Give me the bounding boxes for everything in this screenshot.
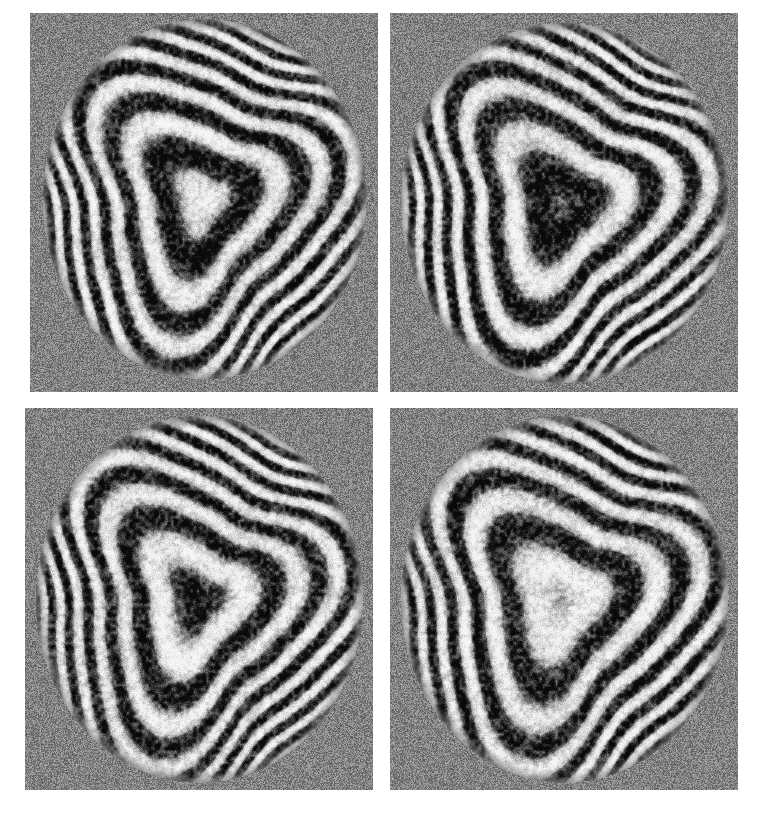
interferogram-canvas [390,408,738,790]
interferogram-panel [390,408,738,790]
interferogram-canvas [30,13,378,392]
interferogram-panel [30,13,378,392]
interferogram-canvas [390,13,738,392]
interferogram-canvas [25,408,373,790]
interferogram-panel [390,13,738,392]
caption-strip [0,791,768,819]
figure-root [0,0,768,819]
interferogram-panel [25,408,373,790]
